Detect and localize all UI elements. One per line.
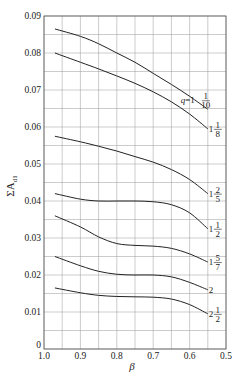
x-axis-label: β [128, 360, 135, 372]
svg-text:10: 10 [201, 100, 211, 110]
svg-text:2: 2 [216, 314, 221, 324]
svg-text:ΣAd1: ΣAd1 [4, 175, 19, 197]
series-line [55, 216, 208, 262]
y-tick-label: 0 [36, 340, 41, 350]
svg-text:1: 1 [209, 189, 214, 199]
series-label: 118 [209, 120, 222, 139]
y-tick-label: 0.01 [24, 307, 41, 317]
x-tick-label: 1.0 [38, 351, 50, 361]
y-tick-label: 0.09 [24, 11, 41, 21]
series-line [55, 53, 208, 129]
svg-text:7: 7 [216, 262, 221, 272]
series-label: 157 [209, 253, 222, 272]
y-tick-label: 0.03 [24, 233, 41, 243]
x-tick-label: 0.9 [74, 351, 86, 361]
x-tick-label: 0.8 [111, 351, 123, 361]
x-tick-label: 0.5 [220, 351, 232, 361]
y-tick-label: 0.08 [24, 48, 41, 58]
svg-text:8: 8 [216, 129, 221, 139]
svg-text:1: 1 [209, 257, 214, 267]
svg-text:2: 2 [209, 285, 214, 295]
svg-text:5: 5 [216, 194, 221, 204]
series-line [55, 194, 208, 229]
line-chart: 00.010.020.030.040.050.060.070.080.09 1.… [0, 0, 243, 383]
y-axis-ticks: 00.010.020.030.040.050.060.070.080.09 [24, 11, 41, 350]
x-axis-ticks: 1.00.90.80.70.60.5 [38, 351, 232, 361]
svg-text:1: 1 [209, 124, 214, 134]
y-tick-label: 0.07 [24, 85, 41, 95]
series-line [55, 136, 208, 193]
series-line [55, 257, 208, 290]
y-tick-label: 0.04 [24, 196, 41, 206]
grid-lines [44, 16, 226, 349]
y-tick-label: 0.02 [24, 270, 41, 280]
series-labels: q=11101181251121572212 [181, 91, 222, 324]
y-tick-label: 0.05 [24, 159, 41, 169]
series-label: 2 [209, 285, 214, 295]
series-label: 112 [209, 220, 222, 239]
svg-text:q=1: q=1 [181, 95, 195, 105]
series-line [55, 288, 208, 314]
svg-text:2: 2 [209, 309, 214, 319]
svg-text:1: 1 [209, 224, 214, 234]
series-label: 212 [209, 305, 222, 324]
y-axis-label: ΣAd1 [4, 175, 19, 197]
svg-text:2: 2 [216, 229, 221, 239]
x-tick-label: 0.6 [184, 351, 196, 361]
x-tick-label: 0.7 [147, 351, 159, 361]
y-tick-label: 0.06 [24, 122, 41, 132]
